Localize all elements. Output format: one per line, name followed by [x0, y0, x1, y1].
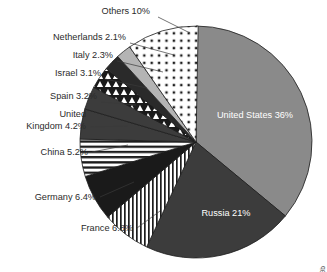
pie-label-line: Germany 6.4% [35, 192, 96, 202]
pie-label-line: China 5.2% [41, 147, 89, 157]
source-note: Based on data from SIPRI, 2019b [319, 266, 326, 272]
pie-label-germany: Germany 6.4% [35, 192, 96, 202]
pie-label-netherlands: Netherlands 2.1% [53, 32, 126, 42]
pie-label-line: Netherlands 2.1% [53, 32, 126, 42]
pie-label-israel: Israel 3.1% [55, 68, 101, 78]
pie-label-line: Others 10% [101, 6, 150, 16]
pie-label-italy: Italy 2.3% [73, 50, 113, 60]
pie-label-others: Others 10% [101, 6, 150, 16]
pie-label-united-states: United States 36% [217, 110, 293, 120]
pie-label-russia: Russia 21% [201, 208, 250, 218]
pie-label-line: Kingdom 4.2% [26, 121, 86, 131]
pie-label-united-kingdom: UnitedKingdom 4.2% [26, 109, 86, 131]
pie-label-line: France 6.8% [81, 223, 133, 233]
pie-label-china: China 5.2% [41, 147, 89, 157]
pie-label-spain: Spain 3.2% [50, 91, 97, 101]
pie-label-line: Italy 2.3% [73, 50, 113, 60]
pie-label-line: Israel 3.1% [55, 68, 101, 78]
pie-label-france: France 6.8% [81, 223, 133, 233]
pie-chart-figure: United States 36%Russia 21%France 6.8%Ge… [0, 0, 327, 272]
pie-label-line: United [59, 109, 86, 119]
pie-label-line: Spain 3.2% [50, 91, 97, 101]
pie-chart-svg: United States 36%Russia 21%France 6.8%Ge… [0, 0, 327, 272]
